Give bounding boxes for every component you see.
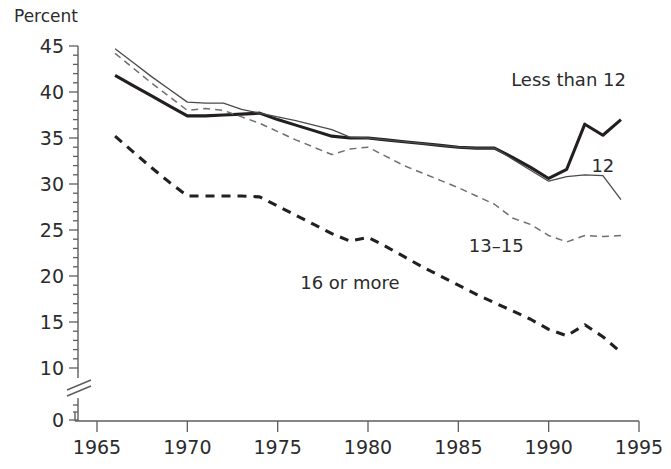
y-axis-title: Percent [14, 6, 78, 26]
series-line-0 [115, 75, 621, 178]
line-chart: 0101520253035404519651970197519801985199… [0, 0, 671, 469]
x-tick-label: 1985 [434, 436, 482, 458]
y-tick-label: 40 [40, 81, 64, 103]
x-tick-label: 1995 [615, 436, 663, 458]
x-tick-label: 1975 [253, 436, 301, 458]
y-tick-label: 45 [40, 35, 64, 57]
x-tick-label: 1980 [344, 436, 392, 458]
y-tick-label: 35 [40, 127, 64, 149]
chart-figure: 0101520253035404519651970197519801985199… [0, 0, 671, 469]
y-tick-label: 20 [40, 265, 64, 287]
axis-break-mark [67, 380, 91, 390]
series-line-3 [115, 136, 621, 352]
series-label-2: 13–15 [469, 235, 524, 256]
x-tick-label: 1965 [73, 436, 121, 458]
y-tick-label: 25 [40, 219, 64, 241]
series-label-0: Less than 12 [511, 69, 626, 90]
series-label-1: 12 [591, 155, 614, 176]
x-tick-label: 1990 [524, 436, 572, 458]
axis-break-mark [67, 386, 91, 396]
y-tick-label: 0 [52, 409, 64, 431]
series-label-3: 16 or more [300, 272, 399, 293]
y-tick-label: 10 [40, 357, 64, 379]
x-tick-label: 1970 [163, 436, 211, 458]
y-tick-label: 15 [40, 311, 64, 333]
y-tick-label: 30 [40, 173, 64, 195]
